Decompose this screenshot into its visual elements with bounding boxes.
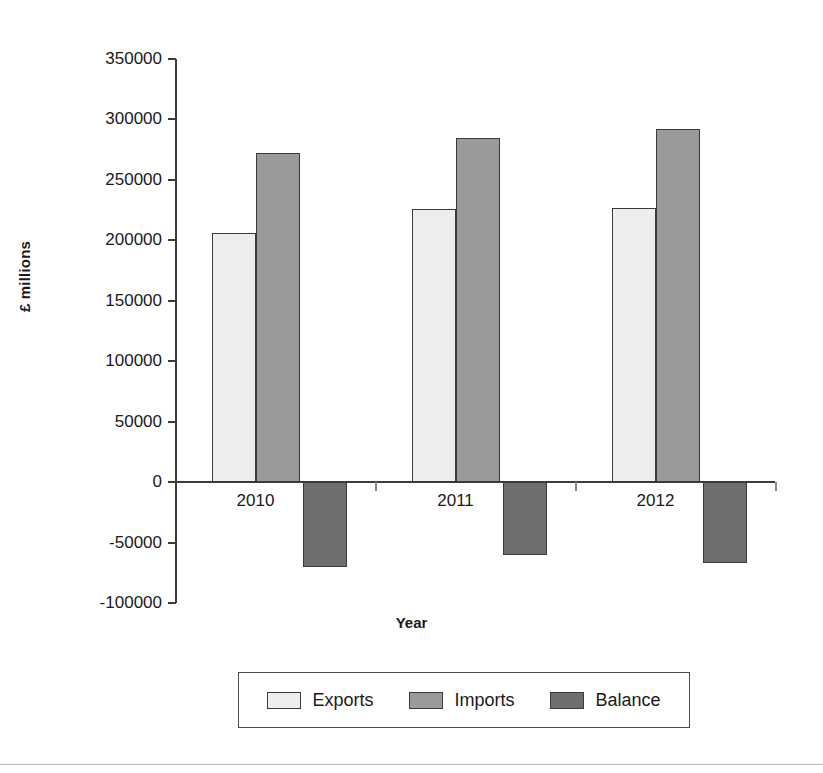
x-axis-title: Year [0,614,823,631]
y-axis-tick-mark [168,602,176,604]
y-axis-tick-mark [168,421,176,423]
page-divider-rule [0,764,823,765]
bar-imports-2012 [656,129,700,482]
y-axis-line [175,59,177,603]
y-axis-tick-label: 100000 [52,352,162,369]
chart-legend: Exports Imports Balance [238,672,690,728]
y-axis-tick-mark [168,300,176,302]
bar-exports-2011 [412,209,456,482]
x-axis-tick-mark [575,482,577,491]
y-axis-tick-label: 0 [52,473,162,490]
legend-swatch-balance [550,692,584,709]
y-axis-tick-label: 300000 [52,110,162,127]
bar-imports-2011 [456,138,500,483]
y-axis-tick-mark [168,58,176,60]
y-axis-tick-mark [168,542,176,544]
y-axis-tick-label: 150000 [52,292,162,309]
y-axis-tick-mark [168,239,176,241]
y-axis-title: £ millions [16,217,33,337]
x-axis-tick-label-2010: 2010 [211,491,301,511]
bar-exports-2012 [612,208,656,482]
legend-label-exports: Exports [312,690,373,711]
bar-balance-2012 [703,482,747,563]
y-axis-tick-label: 250000 [52,171,162,188]
x-axis-tick-label-2011: 2011 [411,491,501,511]
bar-chart-figure: £ millions 35000030000025000020000015000… [0,0,823,773]
y-axis-tick-mark [168,118,176,120]
legend-label-balance: Balance [595,690,660,711]
bar-balance-2011 [503,482,547,555]
bar-balance-2010 [303,482,347,567]
bar-exports-2010 [212,233,256,482]
plot-area: 201020112012 [175,59,775,603]
y-axis-tick-label: -50000 [52,534,162,551]
y-axis-tick-label: -100000 [52,594,162,611]
x-axis-tick-mark [775,482,777,491]
y-axis-tick-mark [168,360,176,362]
legend-swatch-imports [409,692,443,709]
y-axis-tick-mark [168,179,176,181]
bar-imports-2010 [256,153,300,482]
legend-entry-imports: Imports [409,690,514,711]
y-axis-tick-mark [168,481,176,483]
y-axis-tick-label: 50000 [52,413,162,430]
legend-label-imports: Imports [454,690,514,711]
y-axis-tick-label: 200000 [52,231,162,248]
x-axis-tick-mark [375,482,377,491]
y-axis-tick-label: 350000 [52,50,162,67]
y-axis-tick-labels: 3500003000002500002000001500001000005000… [52,0,162,773]
x-axis-tick-label-2012: 2012 [611,491,701,511]
legend-entry-exports: Exports [267,690,373,711]
legend-swatch-exports [267,692,301,709]
legend-entry-balance: Balance [550,690,660,711]
